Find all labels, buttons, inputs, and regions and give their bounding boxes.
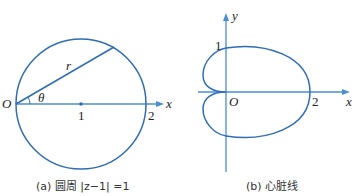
- point2-label: 2: [148, 108, 155, 123]
- figure-a: O r θ 1 2 x (a) 圆周 |z−1| =1: [2, 39, 172, 193]
- x-axis-label-a: x: [165, 96, 172, 111]
- center-point: [79, 102, 83, 106]
- arrow-icon: [223, 13, 229, 21]
- arrow-icon: [156, 101, 164, 107]
- y-axis-label-b: y: [230, 8, 238, 23]
- diagram-canvas: O r θ 1 2 x (a) 圆周 |z−1| =1 1 O 2 x y (b…: [0, 0, 362, 196]
- radius-label: r: [66, 58, 72, 73]
- caption-b: (b) 心脏线: [246, 179, 298, 193]
- origin-label-a: O: [2, 96, 12, 111]
- figure-b: 1 O 2 x y (b) 心脏线: [198, 8, 352, 193]
- x-tick-label: 2: [312, 94, 319, 109]
- origin-label-b: O: [229, 94, 239, 109]
- caption-a: (a) 圆周 |z−1| =1: [36, 180, 129, 193]
- center-label: 1: [78, 108, 85, 123]
- y-tick-label: 1: [215, 38, 222, 53]
- theta-label: θ: [38, 90, 45, 105]
- x-axis-label-b: x: [345, 94, 352, 109]
- angle-arc: [28, 97, 30, 104]
- radius-line: [16, 47, 114, 104]
